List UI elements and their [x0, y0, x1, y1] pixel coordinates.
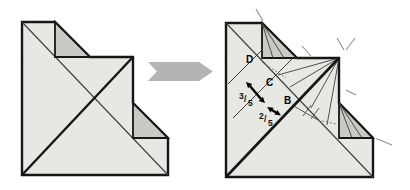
tick-above-terrace [302, 46, 311, 56]
diagram-canvas: D C B 3 / 5 2 / 5 [0, 0, 410, 190]
right-lower-flap [339, 103, 373, 138]
tick-above-flap [256, 9, 263, 21]
right-step-figure: D C B 3 / 5 2 / 5 [226, 9, 392, 177]
process-arrow-icon [148, 62, 213, 81]
tick-right-edge [346, 90, 356, 95]
tick-corner-right [346, 38, 355, 50]
left-step-figure [22, 22, 168, 175]
tick-bottom-right [376, 139, 392, 146]
left-lower-flap [133, 103, 168, 138]
tick-corner-left [337, 38, 344, 50]
point-label-D: D [246, 54, 253, 65]
right-arrow-shape [148, 62, 213, 81]
point-label-B: B [284, 95, 291, 106]
origami-diagram: D C B 3 / 5 2 / 5 [0, 0, 410, 190]
left-upper-flap [55, 22, 90, 57]
point-label-C: C [266, 77, 273, 88]
